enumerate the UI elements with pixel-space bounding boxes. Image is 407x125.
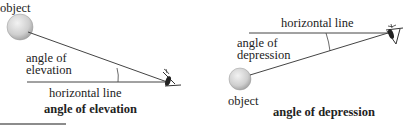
angle-label-line2: depression	[237, 49, 290, 62]
eye-icon	[386, 24, 403, 44]
object-sphere	[229, 68, 251, 90]
eye-icon	[163, 69, 181, 87]
horizontal-line-label: horizontal line	[49, 87, 122, 100]
caption: angle of elevation	[44, 103, 137, 116]
object-sphere	[7, 14, 33, 40]
object-label: object	[0, 2, 31, 15]
object-label: object	[228, 95, 259, 108]
angle-arc	[326, 33, 330, 51]
angle-arc	[117, 68, 118, 82]
horizontal-line-label: horizontal line	[281, 17, 354, 30]
angle-label-line2: elevation	[26, 64, 72, 77]
caption: angle of depression	[273, 106, 375, 119]
